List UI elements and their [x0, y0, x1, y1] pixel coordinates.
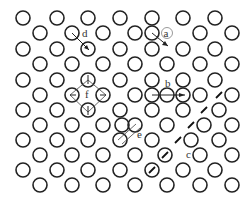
atom-circle	[176, 42, 190, 56]
atom-circle	[128, 148, 142, 162]
lattice-svg: d a f b e	[0, 0, 251, 203]
atom-circle	[50, 11, 64, 25]
atom-circle	[16, 11, 30, 25]
atom-circle	[113, 11, 127, 25]
chain-marker	[216, 92, 222, 98]
atom-circle	[113, 42, 127, 56]
atom-circle	[113, 103, 127, 117]
atom-circle	[225, 26, 239, 40]
atom-circle	[176, 103, 190, 117]
chain-marker	[162, 152, 168, 158]
atom-circle	[225, 57, 239, 71]
label-e: e	[137, 128, 142, 140]
atom-circle	[33, 26, 47, 40]
atom-grid	[16, 11, 239, 192]
atom-circle	[16, 103, 30, 117]
atom-circle	[50, 163, 64, 177]
atom-circle	[16, 42, 30, 56]
atom-circle	[113, 133, 127, 147]
atom-circle	[212, 103, 226, 117]
atom-circle	[225, 148, 239, 162]
atom-circle	[16, 73, 30, 87]
atom-circle	[81, 11, 95, 25]
label-c: c	[186, 148, 191, 160]
chain-marker	[149, 167, 155, 173]
chain-marker	[188, 122, 194, 128]
atom-circle	[50, 42, 64, 56]
atom-circle	[113, 73, 127, 87]
atom-circle	[176, 73, 190, 87]
atom-circle	[225, 118, 239, 132]
atom-circle	[193, 148, 207, 162]
atom-circle	[128, 26, 142, 40]
atom-circle	[160, 118, 174, 132]
atom-circle	[115, 118, 129, 132]
atom-circle	[160, 57, 174, 71]
chain-marker	[175, 137, 181, 143]
atom-circle	[145, 42, 159, 56]
atom-circle	[128, 178, 142, 192]
atom-circle	[160, 178, 174, 192]
atom-circle	[212, 133, 226, 147]
chain-marker	[201, 107, 207, 113]
atom-circle	[65, 148, 79, 162]
atom-circle	[176, 163, 190, 177]
atom-circle	[145, 11, 159, 25]
atom-circle	[50, 133, 64, 147]
atom-circle	[128, 88, 142, 102]
annotation-f: f	[70, 75, 106, 115]
atom-circle	[33, 88, 47, 102]
label-a: a	[164, 27, 169, 39]
atom-circle	[96, 148, 110, 162]
atom-circle	[33, 178, 47, 192]
atom-circle	[113, 163, 127, 177]
atom-circle	[128, 57, 142, 71]
atom-circle	[208, 73, 222, 87]
atom-circle	[225, 88, 239, 102]
atom-circle	[33, 118, 47, 132]
lattice-diagram: d a f b e	[0, 0, 251, 203]
atom-circle	[176, 11, 190, 25]
atom-circle	[33, 57, 47, 71]
atom-circle	[65, 178, 79, 192]
atom-circle	[208, 163, 222, 177]
atom-circle	[145, 73, 159, 87]
atom-circle	[193, 88, 207, 102]
atom-circle	[96, 118, 110, 132]
atom-circle	[193, 178, 207, 192]
atom-circle	[96, 178, 110, 192]
atom-circle	[208, 11, 222, 25]
atom-circle	[96, 57, 110, 71]
atom-circle	[33, 148, 47, 162]
atom-circle	[81, 163, 95, 177]
atom-circle	[184, 133, 198, 147]
atom-circle	[193, 57, 207, 71]
atom-circle	[50, 73, 64, 87]
atom-circle	[50, 103, 64, 117]
atom-circle	[81, 133, 95, 147]
atom-circle	[225, 178, 239, 192]
label-b: b	[165, 77, 171, 89]
atom-circle	[96, 26, 110, 40]
atom-circle	[65, 57, 79, 71]
label-f: f	[85, 88, 89, 100]
atom-circle	[193, 26, 207, 40]
atom-circle	[16, 163, 30, 177]
atom-circle	[65, 118, 79, 132]
atom-circle	[145, 103, 159, 117]
label-d: d	[82, 27, 88, 39]
atom-circle	[197, 118, 211, 132]
atom-circle	[145, 133, 159, 147]
annotation-d: d	[72, 27, 89, 50]
atom-circle	[16, 133, 30, 147]
atom-circle	[208, 42, 222, 56]
